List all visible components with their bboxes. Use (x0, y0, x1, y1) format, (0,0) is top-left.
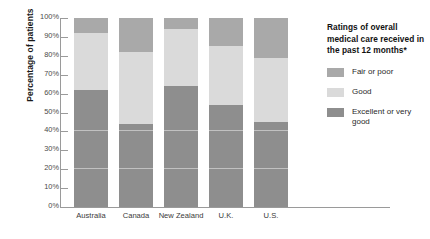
gridline (254, 130, 288, 131)
bar-group: Australia (74, 18, 108, 207)
y-tick-label: 70% (44, 69, 59, 78)
bar-segment[interactable] (209, 46, 243, 105)
gridline (209, 168, 243, 169)
y-tick-mark (61, 94, 68, 95)
y-tick-label: 40% (44, 125, 59, 134)
y-tick: 60% (2, 94, 68, 95)
y-tick: 100% (2, 18, 68, 19)
bar-segment[interactable] (119, 52, 153, 124)
legend-item[interactable]: Excellent or very good (327, 107, 427, 127)
bar-group: U.K. (209, 18, 243, 207)
bar-segment[interactable] (209, 105, 243, 207)
gridline (74, 168, 108, 169)
legend-swatch (327, 68, 344, 77)
y-tick-mark (61, 18, 68, 19)
bar-segment[interactable] (164, 18, 198, 29)
y-tick-mark (61, 150, 68, 151)
bar-segment[interactable] (164, 86, 198, 207)
y-tick-mark (61, 188, 68, 189)
plot-area: 100%90%80%70%60%50%40%30%20%10%0% Austra… (68, 18, 298, 207)
legend-label: Excellent or very good (352, 107, 427, 127)
legend-title: Ratings of overall medical care received… (327, 22, 427, 57)
bar-segment[interactable] (74, 90, 108, 207)
y-tick-mark (61, 169, 68, 170)
y-tick: 70% (2, 75, 68, 76)
bar-segment[interactable] (74, 33, 108, 90)
y-tick-mark (61, 56, 68, 57)
bar-segment[interactable] (254, 18, 288, 58)
y-tick: 90% (2, 37, 68, 38)
legend-items: Fair or poorGoodExcellent or very good (327, 67, 427, 127)
y-tick-mark (61, 75, 68, 76)
chart-figure: Percentage of patients 100%90%80%70%60%5… (0, 0, 430, 239)
y-tick: 40% (2, 131, 68, 132)
y-tick: 80% (2, 56, 68, 57)
bar-stack[interactable] (74, 18, 108, 207)
bar-stack[interactable] (164, 18, 198, 207)
gridline (164, 168, 198, 169)
bar-segment[interactable] (119, 18, 153, 52)
y-tick-label: 20% (44, 163, 59, 172)
y-tick-mark (61, 131, 68, 132)
gridline (209, 130, 243, 131)
gridline (254, 168, 288, 169)
y-tick-mark (61, 207, 68, 208)
bar-segment[interactable] (209, 18, 243, 46)
bar-segment[interactable] (164, 29, 198, 86)
y-tick-label: 30% (44, 144, 59, 153)
legend-item[interactable]: Good (327, 87, 427, 97)
gridline (164, 130, 198, 131)
x-axis-label: U.S. (234, 211, 308, 220)
y-tick-label: 60% (44, 88, 59, 97)
x-axis-line (60, 207, 390, 208)
legend-swatch (327, 108, 344, 117)
bar-stack[interactable] (209, 18, 243, 207)
y-tick-label: 50% (44, 107, 59, 116)
y-tick-label: 90% (44, 31, 59, 40)
y-tick-label: 10% (44, 182, 59, 191)
bar-group: New Zealand (164, 18, 198, 207)
bar-stack[interactable] (254, 18, 288, 207)
gridline (119, 130, 153, 131)
y-tick-label: 80% (44, 50, 59, 59)
y-tick: 30% (2, 150, 68, 151)
bar-segment[interactable] (254, 58, 288, 122)
bar-group: Canada (119, 18, 153, 207)
y-tick: 0% (2, 207, 68, 208)
y-tick: 50% (2, 113, 68, 114)
bar-segment[interactable] (119, 124, 153, 207)
gridline (119, 168, 153, 169)
legend-swatch (327, 88, 344, 97)
bar-stack[interactable] (119, 18, 153, 207)
y-tick-mark (61, 113, 68, 114)
y-axis-title: Percentage of patients (25, 0, 35, 129)
legend-label: Fair or poor (352, 67, 393, 77)
gridline (74, 130, 108, 131)
legend-label: Good (352, 87, 372, 97)
legend: Ratings of overall medical care received… (327, 22, 427, 137)
legend-item[interactable]: Fair or poor (327, 67, 427, 77)
bar-segment[interactable] (254, 122, 288, 207)
y-tick-label: 0% (48, 201, 59, 210)
bar-group: U.S. (254, 18, 288, 207)
y-tick-mark (61, 37, 68, 38)
bar-segment[interactable] (74, 18, 108, 33)
y-tick: 20% (2, 169, 68, 170)
y-tick-label: 100% (40, 12, 59, 21)
y-tick: 10% (2, 188, 68, 189)
